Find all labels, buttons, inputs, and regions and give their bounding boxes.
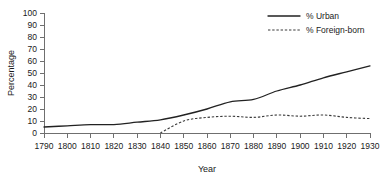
x-tick-label: 1820	[104, 141, 123, 151]
series-line-urban	[44, 66, 370, 127]
line-chart: 0102030405060708090100 17901800181018201…	[0, 0, 388, 178]
x-tick-label: 1910	[314, 141, 333, 151]
x-tick-label: 1790	[35, 141, 54, 151]
legend-label-2: % Foreign-born	[306, 25, 365, 35]
y-axis-ticks: 0102030405060708090100	[23, 8, 44, 138]
x-tick-label: 1920	[337, 141, 356, 151]
legend-label-1: % Urban	[306, 11, 339, 21]
series-line-foreign	[160, 115, 370, 133]
y-tick-label: 30	[28, 92, 38, 102]
x-tick-label: 1830	[128, 141, 147, 151]
y-axis-title: Percentage	[6, 50, 16, 96]
y-tick-label: 50	[28, 68, 38, 78]
y-tick-label: 100	[23, 8, 37, 18]
x-tick-label: 1800	[58, 141, 77, 151]
y-tick-label: 0	[32, 128, 37, 138]
x-axis-title: Year	[198, 164, 216, 174]
chart-container: 0102030405060708090100 17901800181018201…	[0, 0, 388, 178]
x-tick-label: 1880	[244, 141, 263, 151]
y-tick-label: 40	[28, 80, 38, 90]
x-tick-label: 1850	[174, 141, 193, 151]
x-tick-label: 1810	[81, 141, 100, 151]
y-tick-label: 10	[28, 116, 38, 126]
chart-legend: % Urban% Foreign-born	[268, 11, 365, 35]
x-tick-label: 1890	[267, 141, 286, 151]
x-tick-label: 1840	[151, 141, 170, 151]
y-tick-label: 80	[28, 32, 38, 42]
y-tick-label: 20	[28, 104, 38, 114]
y-tick-label: 70	[28, 44, 38, 54]
x-tick-label: 1930	[361, 141, 380, 151]
y-tick-label: 90	[28, 20, 38, 30]
x-axis-ticks: 1790180018101820183018401850186018701880…	[35, 133, 380, 151]
x-tick-label: 1900	[291, 141, 310, 151]
y-tick-label: 60	[28, 56, 38, 66]
x-tick-label: 1860	[198, 141, 217, 151]
x-tick-label: 1870	[221, 141, 240, 151]
